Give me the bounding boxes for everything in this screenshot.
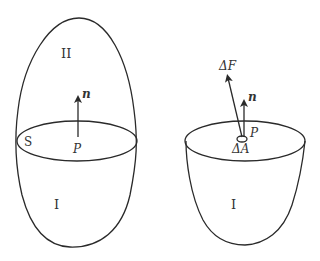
normal-n-label: n [82,87,91,101]
force-vector-arrow [228,78,242,137]
normal-n-label-right: n [248,90,257,104]
diagram-canvas: II n S P I ΔF n P ΔA I [0,0,320,261]
surface-s-label: S [24,135,32,149]
left-figure: II n S P I [16,18,137,247]
right-figure: ΔF n P ΔA I [185,59,305,245]
area-delta-a-label: ΔA [231,142,250,156]
right-body-outline [186,141,305,245]
point-p-label: P [72,142,82,156]
region-i-label-right: I [231,197,236,212]
point-p-label-right: P [249,126,259,140]
left-body-outline [16,18,137,247]
force-delta-f-label: ΔF [218,59,237,73]
region-i-label: I [54,197,59,212]
region-ii-label: II [61,46,71,61]
